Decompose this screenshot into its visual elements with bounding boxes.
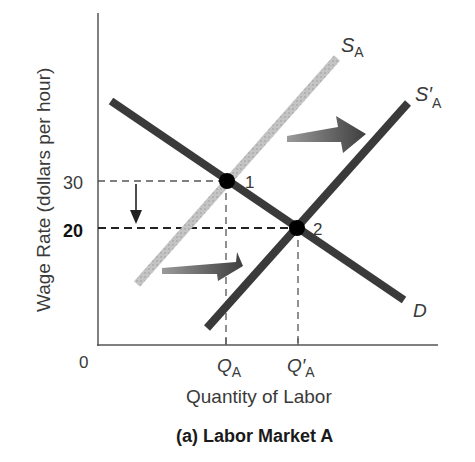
point-1-label: 1 xyxy=(245,173,254,192)
supply-curve-sa xyxy=(137,58,337,284)
origin-label: 0 xyxy=(79,353,88,372)
equilibrium-point-1 xyxy=(219,173,235,189)
wage-decrease-arrow-icon xyxy=(130,184,142,224)
sa-prime-label-sub: A xyxy=(432,95,442,111)
sa-label-sub: A xyxy=(354,44,364,60)
qa-prime-label-main: Q′ xyxy=(287,355,307,376)
qa-prime-label: Q′A xyxy=(287,355,315,380)
labor-market-chart: 1 2 SA S′A D 30 20 0 QA Q′A Quantity of … xyxy=(0,0,475,462)
y-axis-title: Wage Rate (dollars per hour) xyxy=(33,68,54,312)
sa-label-main: S xyxy=(341,34,355,56)
d-label: D xyxy=(413,300,427,321)
qa-label: QA xyxy=(217,355,242,380)
y-tick-30: 30 xyxy=(63,173,83,193)
sa-prime-label-main: S′ xyxy=(415,83,433,105)
qa-label-sub: A xyxy=(232,364,242,380)
chart-caption: (a) Labor Market A xyxy=(176,426,333,446)
qa-label-main: Q xyxy=(217,355,232,376)
sa-prime-label: S′A xyxy=(415,83,442,111)
equilibrium-point-2 xyxy=(289,220,305,236)
sa-label: SA xyxy=(341,34,364,60)
shift-right-arrow-icon-lower xyxy=(162,252,243,281)
y-tick-20: 20 xyxy=(63,221,83,241)
x-axis-title: Quantity of Labor xyxy=(186,386,332,407)
shift-right-arrow-icon-upper xyxy=(287,116,366,153)
qa-prime-label-sub: A xyxy=(305,364,315,380)
point-2-label: 2 xyxy=(313,220,322,239)
